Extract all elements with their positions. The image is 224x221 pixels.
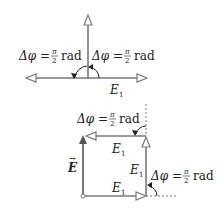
svg-text:rad: rad bbox=[193, 169, 214, 183]
svg-text:π: π bbox=[183, 168, 189, 176]
svg-text:π: π bbox=[124, 48, 130, 56]
right-arrowhead-icon bbox=[137, 74, 147, 82]
svg-text:Δφ: Δφ bbox=[76, 112, 95, 126]
left-phase-label: Δφ = π 2 rad bbox=[18, 48, 82, 65]
right-phase-label: Δφ = π 2 rad bbox=[91, 48, 155, 65]
right-arrowhead-icon bbox=[136, 192, 146, 200]
up-arrowhead-icon bbox=[84, 15, 92, 25]
svg-text:2: 2 bbox=[184, 177, 188, 185]
svg-text:E: E bbox=[129, 163, 139, 177]
svg-text:=: = bbox=[113, 49, 123, 63]
svg-text:Δφ: Δφ bbox=[91, 49, 110, 63]
right-phase-label: Δφ = π 2 rad bbox=[150, 168, 214, 185]
resultant-e-label: E → bbox=[67, 154, 78, 175]
svg-text:E: E bbox=[111, 142, 121, 156]
bottom-e1-label: E 1 bbox=[111, 181, 125, 197]
top-angle-arc bbox=[136, 126, 146, 134]
svg-text:rad: rad bbox=[134, 49, 155, 63]
e1-label: E 1 bbox=[109, 83, 123, 99]
svg-text:rad: rad bbox=[61, 49, 82, 63]
svg-text:rad: rad bbox=[119, 112, 140, 126]
phasor-diagram: Δφ = π 2 rad Δφ = π 2 rad E 1 bbox=[0, 0, 224, 221]
left-angle-arc bbox=[75, 66, 87, 77]
svg-text:Δφ: Δφ bbox=[18, 49, 37, 63]
svg-text:π: π bbox=[51, 48, 57, 56]
svg-text:Δφ: Δφ bbox=[150, 169, 169, 183]
svg-text:2: 2 bbox=[110, 120, 114, 128]
svg-text:1: 1 bbox=[139, 171, 143, 179]
svg-text:1: 1 bbox=[121, 189, 125, 197]
right-e1-label: E 1 bbox=[129, 163, 143, 179]
svg-text:π: π bbox=[109, 111, 115, 119]
svg-text:E: E bbox=[67, 161, 78, 175]
svg-text:2: 2 bbox=[125, 57, 129, 65]
left-arrowhead-icon bbox=[26, 74, 36, 82]
svg-text:=: = bbox=[172, 169, 182, 183]
svg-text:E: E bbox=[111, 181, 121, 195]
up-arrowhead-icon bbox=[142, 137, 150, 147]
bottom-phasor-diagram: Δφ = π 2 rad Δφ = π 2 rad E 1 E 1 E 1 bbox=[67, 104, 214, 200]
left-arrowhead-icon bbox=[86, 132, 96, 140]
svg-text:→: → bbox=[69, 154, 76, 163]
svg-text:E: E bbox=[109, 83, 119, 97]
top-phase-label: Δφ = π 2 rad bbox=[76, 111, 140, 128]
svg-text:=: = bbox=[40, 49, 50, 63]
origin-point bbox=[81, 194, 85, 198]
bottom-angle-arc bbox=[149, 186, 157, 196]
svg-text:1: 1 bbox=[121, 150, 125, 158]
arc-arrowhead-icon bbox=[132, 130, 138, 136]
top-e1-label: E 1 bbox=[111, 142, 125, 158]
top-phasor-diagram: Δφ = π 2 rad Δφ = π 2 rad E 1 bbox=[18, 15, 155, 99]
svg-text:1: 1 bbox=[119, 91, 123, 99]
svg-text:2: 2 bbox=[52, 57, 56, 65]
svg-text:=: = bbox=[98, 112, 108, 126]
